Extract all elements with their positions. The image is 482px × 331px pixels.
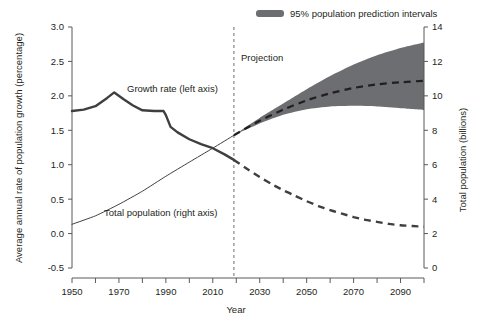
left-axis: -0.50.00.51.01.52.02.53.0 <box>48 21 72 273</box>
right-tick-label: 10 <box>432 90 443 101</box>
chart-canvas: -0.50.00.51.01.52.02.53.0 02468101214 19… <box>0 0 482 331</box>
x-tick-label: 1990 <box>155 286 176 297</box>
left-tick-label: 1.0 <box>51 159 64 170</box>
right-axis: 02468101214 <box>424 21 443 273</box>
growth-rate-annotation: Growth rate (left axis) <box>127 83 218 94</box>
right-tick-label: 0 <box>432 262 437 273</box>
left-tick-label: 3.0 <box>51 21 64 32</box>
right-tick-label: 8 <box>432 125 437 136</box>
x-tick-label: 2090 <box>390 286 411 297</box>
x-tick-label: 2030 <box>249 286 270 297</box>
right-tick-label: 12 <box>432 56 443 67</box>
right-tick-label: 4 <box>432 194 437 205</box>
left-tick-label: 2.5 <box>51 56 64 67</box>
x-tick-label: 1950 <box>61 286 82 297</box>
right-tick-label: 6 <box>432 159 437 170</box>
population-growth-chart: -0.50.00.51.01.52.02.53.0 02468101214 19… <box>0 0 482 331</box>
left-tick-label: 0.0 <box>51 228 64 239</box>
x-tick-label: 1970 <box>108 286 129 297</box>
left-tick-label: 1.5 <box>51 125 64 136</box>
x-tick-label: 2010 <box>202 286 223 297</box>
right-axis-title: Total population (billions) <box>457 108 468 213</box>
total-population-annotation: Total population (right axis) <box>104 207 218 218</box>
legend: 95% population prediction intervals <box>256 8 438 19</box>
left-tick-label: -0.5 <box>48 262 64 273</box>
legend-swatch-interval <box>256 10 284 17</box>
left-axis-title: Average annual rate of population growth… <box>13 33 24 263</box>
left-tick-label: 2.0 <box>51 90 64 101</box>
legend-label-interval: 95% population prediction intervals <box>290 8 438 19</box>
series-growth-rate-projected <box>234 160 424 227</box>
left-tick-label: 0.5 <box>51 194 64 205</box>
right-tick-label: 2 <box>432 228 437 239</box>
x-axis-title: Year <box>226 304 245 315</box>
projection-annotation: Projection <box>241 52 283 63</box>
x-tick-label: 2050 <box>296 286 317 297</box>
x-tick-label: 2070 <box>343 286 364 297</box>
x-axis: 19501970199020102030205020702090 <box>61 278 424 297</box>
right-tick-label: 14 <box>432 21 443 32</box>
